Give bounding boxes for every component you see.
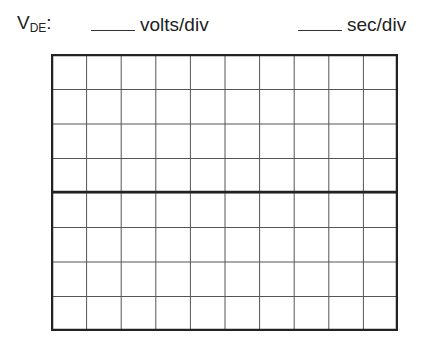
sec-per-div-field: sec/div: [298, 12, 406, 36]
volts-unit-label: volts/div: [140, 14, 209, 35]
oscilloscope-graticule: [51, 54, 398, 331]
volts-blank[interactable]: [91, 12, 135, 31]
signal-label: VDE:: [17, 12, 52, 35]
sec-unit-label: sec/div: [347, 14, 406, 35]
volts-per-div-field: volts/div: [91, 12, 209, 36]
sec-blank[interactable]: [298, 12, 342, 31]
